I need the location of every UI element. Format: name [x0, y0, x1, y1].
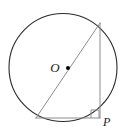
geometry-figure: O P: [0, 0, 130, 136]
center-label-o: O: [50, 60, 60, 75]
geometry-canvas: O P: [0, 0, 130, 136]
figure-background: [0, 0, 130, 136]
center-point-dot: [66, 66, 70, 70]
vertex-label-p: P: [102, 115, 111, 129]
